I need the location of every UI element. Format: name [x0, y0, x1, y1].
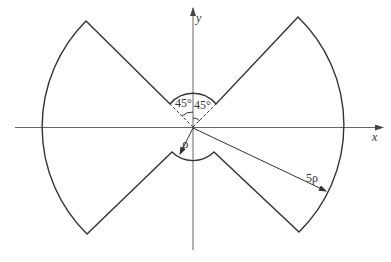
- outer-radius-label: 5ρ: [306, 172, 318, 184]
- x-axis-label: x: [372, 131, 377, 143]
- inner-radius-label: ρ: [182, 137, 189, 150]
- angle-arc-right: [193, 118, 200, 121]
- diagram-canvas: [0, 0, 391, 262]
- angle-label-right: 45°: [194, 99, 211, 111]
- angle-arc-left: [182, 112, 193, 116]
- y-axis-label: y: [196, 12, 201, 24]
- angle-label-left: 45°: [175, 97, 192, 109]
